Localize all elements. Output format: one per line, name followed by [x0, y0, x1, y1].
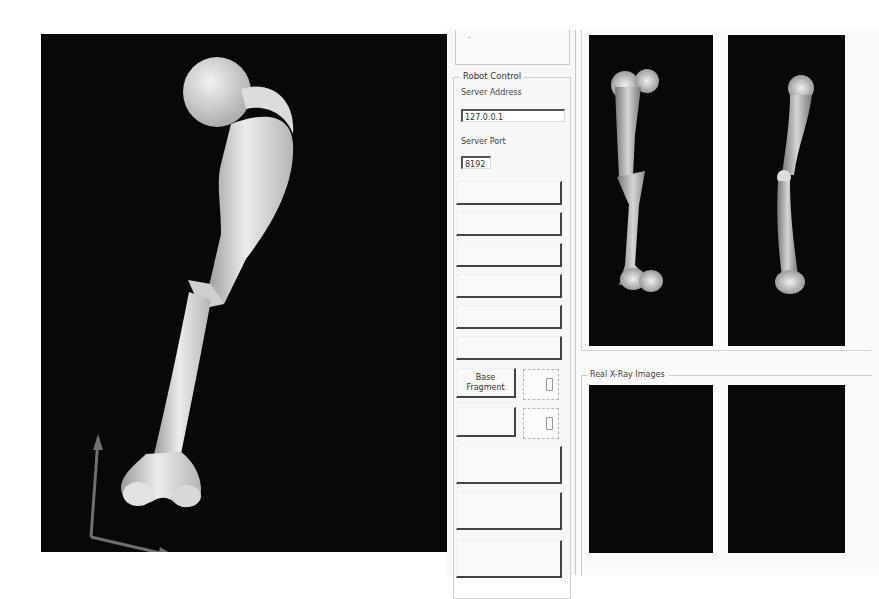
base-fragment-button[interactable]: BaseFragment [456, 368, 516, 398]
server-port-label: Server Port [461, 137, 506, 146]
top-group-box: · [455, 30, 570, 65]
robot-button-5[interactable] [456, 305, 562, 329]
server-port-input[interactable]: 8192 [461, 156, 491, 169]
moving-fragment-button[interactable] [456, 407, 516, 437]
base-fragment-toggle[interactable] [523, 369, 559, 400]
virtual-xray-ap-view[interactable] [589, 35, 713, 346]
femur-xray-ap [589, 35, 713, 346]
x-axis [91, 537, 169, 552]
real-xray-ap-view[interactable] [589, 385, 713, 553]
control-panel: · Robot Control Server Address 127.0.0.1… [447, 30, 576, 575]
server-address-label: Server Address [461, 88, 522, 97]
robot-button-1[interactable] [456, 181, 562, 205]
y-axis [91, 439, 98, 537]
server-address-input[interactable]: 127.0.0.1 [461, 109, 565, 122]
divider [581, 350, 871, 351]
robot-button-2[interactable] [456, 212, 562, 236]
toggle-indicator-icon [546, 378, 553, 391]
robot-control-group: Robot Control Server Address 127.0.0.1 S… [453, 77, 571, 599]
robot-button-3[interactable] [456, 243, 562, 267]
robot-button-4[interactable] [456, 274, 562, 298]
3d-bone-viewport[interactable] [41, 34, 447, 552]
virtual-xray-lateral-view[interactable] [728, 35, 845, 346]
robot-button-8[interactable] [456, 492, 562, 530]
femur-3d-model [41, 34, 447, 552]
moving-fragment-toggle[interactable] [523, 408, 559, 439]
real-xray-title: Real X-Ray Images [587, 370, 668, 379]
robot-button-7[interactable] [456, 446, 562, 484]
robot-control-title: Robot Control [460, 71, 524, 81]
robot-button-9[interactable] [456, 540, 562, 578]
marker: · [468, 34, 470, 42]
robot-button-6[interactable] [456, 336, 562, 360]
real-xray-lateral-view[interactable] [728, 385, 845, 553]
femur-xray-lateral [728, 35, 845, 346]
divider [581, 30, 582, 350]
toggle-indicator-icon [546, 417, 553, 430]
